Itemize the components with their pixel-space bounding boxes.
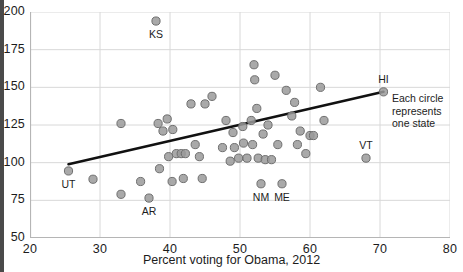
data-point bbox=[168, 177, 176, 185]
data-point bbox=[278, 180, 286, 188]
data-point bbox=[302, 150, 310, 158]
data-point bbox=[89, 175, 97, 183]
data-point bbox=[187, 100, 195, 108]
data-point bbox=[251, 76, 259, 84]
data-point bbox=[230, 144, 238, 152]
data-point bbox=[201, 100, 209, 108]
data-point bbox=[163, 115, 171, 123]
data-point bbox=[257, 180, 265, 188]
x-axis-title: Percent voting for Obama, 2012 bbox=[0, 253, 463, 267]
data-point bbox=[154, 119, 162, 127]
data-point bbox=[316, 83, 324, 91]
annotation-line-1: Each circle bbox=[392, 92, 462, 105]
data-point bbox=[274, 140, 282, 148]
data-point bbox=[208, 92, 216, 100]
data-point bbox=[222, 116, 230, 124]
data-point bbox=[239, 122, 247, 130]
data-point bbox=[239, 139, 247, 147]
data-point bbox=[379, 88, 387, 96]
data-point bbox=[320, 116, 328, 124]
data-point bbox=[64, 167, 72, 175]
data-point bbox=[137, 177, 145, 185]
point-label-ks: KS bbox=[136, 28, 176, 40]
data-point bbox=[259, 130, 267, 138]
data-point bbox=[117, 190, 125, 198]
data-point bbox=[117, 119, 125, 127]
trend-line-segment bbox=[69, 92, 384, 164]
data-point bbox=[309, 131, 317, 139]
annotation-line-2: represents bbox=[392, 105, 462, 118]
data-point bbox=[159, 127, 167, 135]
data-point bbox=[288, 112, 296, 120]
data-point bbox=[195, 153, 203, 161]
data-point bbox=[145, 194, 153, 202]
data-point bbox=[152, 17, 160, 25]
trend-line bbox=[69, 92, 384, 164]
data-point bbox=[181, 150, 189, 158]
data-point bbox=[179, 174, 187, 182]
data-point bbox=[243, 154, 251, 162]
data-point bbox=[229, 128, 237, 136]
data-point bbox=[226, 157, 234, 165]
data-point bbox=[271, 71, 279, 79]
data-point bbox=[198, 174, 206, 182]
data-point bbox=[247, 116, 255, 124]
point-label-ar: AR bbox=[129, 205, 169, 217]
data-point bbox=[253, 104, 261, 112]
data-point bbox=[362, 154, 370, 162]
data-point bbox=[293, 140, 301, 148]
y-tick-label: 100 bbox=[0, 155, 25, 169]
data-point bbox=[264, 121, 272, 129]
data-point bbox=[282, 86, 290, 94]
y-tick-label: 200 bbox=[0, 4, 25, 18]
y-tick-label: 175 bbox=[0, 42, 25, 56]
y-tick-label: 75 bbox=[0, 192, 25, 206]
point-label-vt: VT bbox=[346, 139, 386, 151]
data-points bbox=[64, 17, 387, 202]
y-tick-label: 150 bbox=[0, 79, 25, 93]
y-tick-label: 125 bbox=[0, 117, 25, 131]
each-circle-annotation: Each circle represents one state bbox=[392, 92, 462, 130]
data-point bbox=[267, 156, 275, 164]
point-label-hi: HI bbox=[364, 73, 404, 85]
data-point bbox=[296, 127, 304, 135]
data-point bbox=[249, 140, 257, 148]
data-point bbox=[191, 140, 199, 148]
data-point bbox=[218, 144, 226, 152]
data-point bbox=[169, 125, 177, 133]
plot-area bbox=[30, 12, 450, 238]
data-point bbox=[165, 153, 173, 161]
plot-canvas bbox=[30, 12, 450, 238]
point-label-me: ME bbox=[262, 191, 302, 203]
data-point bbox=[155, 165, 163, 173]
scatter-plot-figure: 5075100125150175200 20304050607080 UTARK… bbox=[0, 0, 463, 272]
data-point bbox=[291, 98, 299, 106]
point-label-ut: UT bbox=[49, 178, 89, 190]
annotation-line-3: one state bbox=[392, 117, 462, 130]
data-point bbox=[250, 61, 258, 69]
data-point bbox=[235, 154, 243, 162]
